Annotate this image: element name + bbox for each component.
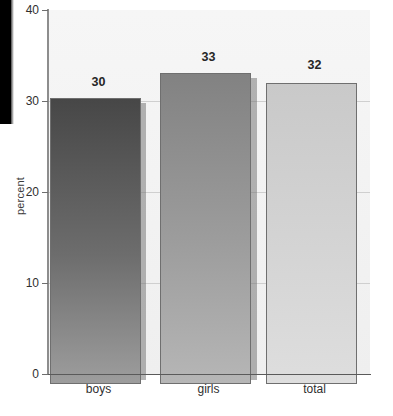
y-tick-label-40: 40 — [5, 3, 39, 17]
y-tick-mark-0 — [42, 374, 48, 376]
bar-girls — [160, 73, 251, 384]
y-tick-mark-10 — [42, 283, 48, 285]
x-axis-line — [47, 374, 371, 376]
y-tick-mark-40 — [42, 10, 48, 12]
bar-value-label-girls: 33 — [163, 50, 254, 64]
bar-value-label-total: 32 — [269, 58, 360, 72]
y-tick-label-0: 0 — [5, 367, 39, 381]
y-tick-mark-30 — [42, 101, 48, 103]
y-tick-label-20: 20 — [5, 185, 39, 199]
y-tick-label-10: 10 — [5, 276, 39, 290]
bar-total — [266, 83, 357, 384]
chart-screenshot: percent 40 30 20 10 0 30 33 32 boys girl… — [0, 0, 393, 416]
y-tick-mark-20 — [42, 192, 48, 194]
bar-boys — [50, 98, 141, 384]
x-tick-label-boys: boys — [53, 382, 144, 396]
bar-value-label-boys: 30 — [53, 75, 144, 89]
y-tick-label-30: 30 — [5, 94, 39, 108]
x-tick-label-girls: girls — [163, 382, 254, 396]
x-tick-label-total: total — [269, 382, 360, 396]
